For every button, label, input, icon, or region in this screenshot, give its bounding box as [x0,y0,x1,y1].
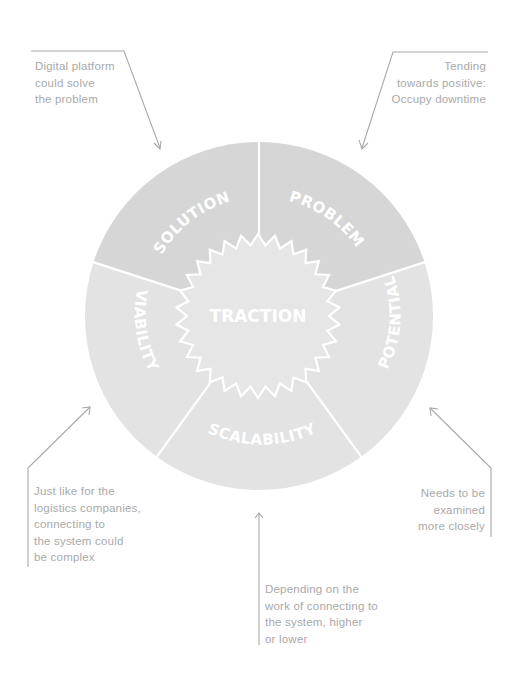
center-label-traction: TRACTION [210,306,307,326]
note-potential: Needs to be examined more closely [418,485,485,535]
note-scalability: Depending on the work of connecting to t… [265,581,378,647]
note-problem: Tending towards positive: Occupy downtim… [392,58,486,108]
note-viability: Just like for the logistics companies, c… [34,483,141,566]
note-solution: Digital platform could solve the problem [35,58,115,108]
